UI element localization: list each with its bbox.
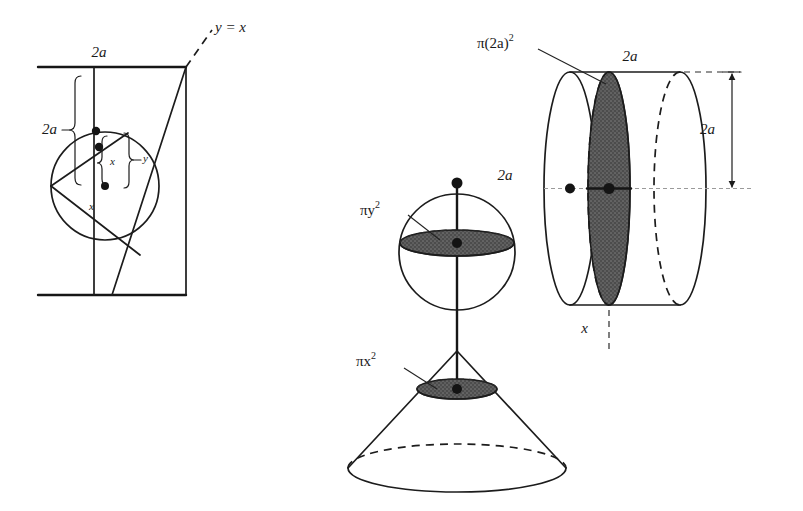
canvas-background	[0, 0, 803, 511]
geometry-figure-svg: 2a 2a y = x x y x 2a πy2	[0, 0, 803, 511]
label-y-equals-x: y = x	[213, 19, 246, 35]
cone-disk-center-dot	[452, 384, 462, 394]
label-radius-x: x	[88, 200, 94, 212]
figure-root: 2a 2a y = x x y x 2a πy2	[0, 0, 803, 511]
label-brace-y: y	[142, 152, 148, 164]
label-left-2a: 2a	[42, 121, 57, 137]
cylinder-front-center-dot	[565, 184, 575, 194]
cylinder-disk-center-dot	[604, 183, 615, 194]
label-top-2a: 2a	[92, 44, 107, 60]
label-middle-2a: 2a	[498, 167, 513, 183]
node-dot-outer	[92, 127, 100, 135]
label-cylinder-top-2a: 2a	[623, 48, 638, 64]
label-cylinder-x: x	[580, 320, 588, 336]
sphere-disk-center-dot	[452, 238, 462, 248]
axis-top-dot	[452, 178, 463, 189]
label-brace-x: x	[109, 155, 115, 167]
label-pi-2a-squared: π(2a)2	[477, 32, 514, 52]
label-cylinder-height-2a: 2a	[700, 121, 715, 137]
circle-center-dot	[101, 182, 109, 190]
